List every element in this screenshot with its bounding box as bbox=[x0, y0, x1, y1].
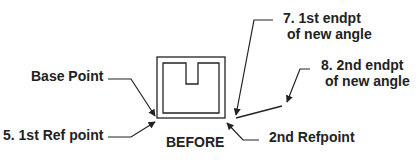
label-base-point: Base Point bbox=[31, 68, 104, 84]
label-first-endpt-line2: of new angle bbox=[287, 26, 372, 42]
leader-base-point-arrow bbox=[108, 79, 155, 116]
label-second-endpt-line1: 8. 2nd endpt bbox=[321, 57, 404, 73]
leader-first-ref-point-arrow bbox=[108, 122, 155, 137]
leader-second-endpt-arrow bbox=[287, 69, 310, 102]
label-second-endpt: 8. 2nd endpt bbox=[321, 57, 404, 73]
label-first-endpt-2: of new angle bbox=[287, 26, 372, 42]
label-first-ref-point: 5. 1st Ref point bbox=[3, 127, 104, 143]
object-shape bbox=[157, 57, 225, 118]
caption-before: BEFORE bbox=[166, 134, 224, 150]
label-second-ref-point: 2nd Refpoint bbox=[269, 129, 355, 145]
leader-second-ref-point-arrow bbox=[227, 123, 259, 140]
label-second-endpt-line2: of new angle bbox=[325, 73, 410, 89]
new-angle-line bbox=[236, 106, 282, 118]
outer-square bbox=[157, 57, 225, 118]
inner-square-with-notch bbox=[163, 63, 219, 113]
rotate-reference-diagram: Base Point 5. 1st Ref point 7. 1st endpt… bbox=[0, 0, 420, 160]
label-first-endpt-line1: 7. 1st endpt bbox=[283, 10, 361, 26]
label-first-endpt: 7. 1st endpt bbox=[283, 10, 361, 26]
leader-first-endpt-arrow bbox=[236, 20, 273, 115]
label-second-endpt-2: of new angle bbox=[325, 73, 410, 89]
